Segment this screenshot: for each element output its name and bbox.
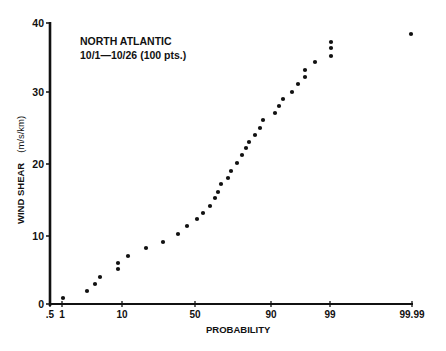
data-point	[261, 118, 265, 122]
annotation-dates: 10/1—10/26 (100 pts.)	[80, 48, 186, 62]
data-point	[273, 111, 277, 115]
data-point	[253, 133, 257, 137]
data-point	[247, 140, 251, 144]
x-tick-label: 10	[116, 309, 128, 320]
x-tick-label: 90	[265, 309, 277, 320]
y-axis-label: WIND SHEAR(m/s/km)	[15, 116, 26, 224]
y-tick-label: 30	[32, 86, 44, 98]
probability-plot: 010203040 .511050909999.99 PROBABILITY W…	[0, 0, 446, 351]
data-point	[240, 153, 244, 157]
data-point	[281, 97, 285, 101]
data-point	[201, 211, 205, 215]
data-point	[329, 46, 333, 50]
data-point	[216, 190, 220, 194]
data-point	[329, 54, 333, 58]
data-point	[161, 240, 165, 244]
data-point	[213, 196, 217, 200]
data-point	[219, 182, 223, 186]
y-axis-units: (m/s/km)	[15, 116, 26, 153]
data-point	[208, 204, 212, 208]
data-point	[185, 224, 189, 228]
x-tick-label: 99	[324, 309, 336, 320]
x-tick-label: 99.99	[399, 309, 424, 320]
data-point	[116, 261, 120, 265]
x-tick-label: 50	[189, 309, 201, 320]
data-point	[303, 68, 307, 72]
data-points	[61, 32, 413, 300]
y-tick-label: 10	[32, 230, 44, 242]
y-tick-label: 0	[38, 298, 44, 310]
svg-text:WIND SHEAR(m/s/km): WIND SHEAR(m/s/km)	[15, 116, 26, 224]
data-point	[126, 254, 130, 258]
data-point	[93, 282, 97, 286]
data-point	[61, 296, 65, 300]
x-axis-label: PROBABILITY	[206, 324, 271, 335]
data-point	[229, 169, 233, 173]
data-point	[329, 40, 333, 44]
x-tick-label: 1	[59, 309, 65, 320]
annotation-region: NORTH ATLANTIC	[80, 34, 186, 48]
data-point	[144, 246, 148, 250]
data-point	[116, 267, 120, 271]
data-point	[226, 176, 230, 180]
data-point	[409, 32, 413, 36]
data-point	[85, 289, 89, 293]
data-point	[290, 90, 294, 94]
data-point	[235, 161, 239, 165]
chart-annotation: NORTH ATLANTIC 10/1—10/26 (100 pts.)	[80, 34, 186, 62]
data-point	[303, 75, 307, 79]
data-point	[244, 146, 248, 150]
y-axis-label-text: WIND SHEAR	[15, 163, 26, 224]
x-tick-label: .5	[46, 309, 55, 320]
data-point	[277, 104, 281, 108]
data-point	[296, 82, 300, 86]
data-point	[176, 232, 180, 236]
data-point	[98, 275, 102, 279]
x-axis: .511050909999.99	[46, 301, 425, 320]
y-axis: 010203040	[32, 17, 50, 310]
y-tick-label: 40	[32, 17, 44, 29]
y-tick-label: 20	[32, 158, 44, 170]
data-point	[195, 217, 199, 221]
data-point	[313, 60, 317, 64]
data-point	[258, 126, 262, 130]
